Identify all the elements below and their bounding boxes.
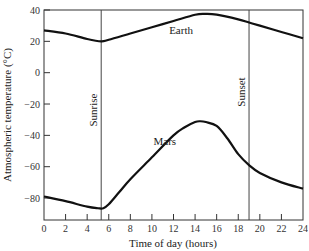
annotations: SunriseSunsetEarthMars <box>87 24 247 147</box>
earth-series-label: Earth <box>169 24 193 36</box>
x-tick-label: 18 <box>233 223 243 234</box>
y-tick-label: −60 <box>24 161 40 172</box>
y-axis-ticks: 40200−20−40−60−80 <box>24 5 50 204</box>
y-tick-label: −40 <box>24 130 40 141</box>
mars-series-label: Mars <box>154 135 177 147</box>
x-tick-label: 8 <box>128 223 133 234</box>
x-tick-label: 14 <box>190 223 200 234</box>
x-tick-label: 10 <box>147 223 157 234</box>
y-tick-label: −20 <box>24 99 40 110</box>
x-axis-title: Time of day (hours) <box>129 237 217 250</box>
x-tick-label: 2 <box>63 223 68 234</box>
x-tick-label: 24 <box>298 223 308 234</box>
sunset-label: Sunset <box>235 77 247 106</box>
x-tick-label: 12 <box>169 223 179 234</box>
temperature-chart: 40200−20−40−60−80 024681012141618202224 … <box>0 0 308 251</box>
y-tick-label: −80 <box>24 193 40 204</box>
data-series <box>44 14 303 209</box>
sunrise-label: Sunrise <box>87 93 99 126</box>
plot-frame <box>44 10 303 220</box>
x-tick-label: 22 <box>276 223 286 234</box>
y-tick-label: 20 <box>30 36 40 47</box>
y-axis-title: Atmospheric temperature (°C) <box>1 48 14 182</box>
y-tick-label: 0 <box>35 67 40 78</box>
x-tick-label: 20 <box>255 223 265 234</box>
x-tick-label: 0 <box>42 223 47 234</box>
x-tick-label: 6 <box>106 223 111 234</box>
x-tick-label: 4 <box>85 223 90 234</box>
x-tick-label: 16 <box>212 223 222 234</box>
x-axis-ticks: 024681012141618202224 <box>42 214 309 234</box>
y-tick-label: 40 <box>30 5 40 16</box>
